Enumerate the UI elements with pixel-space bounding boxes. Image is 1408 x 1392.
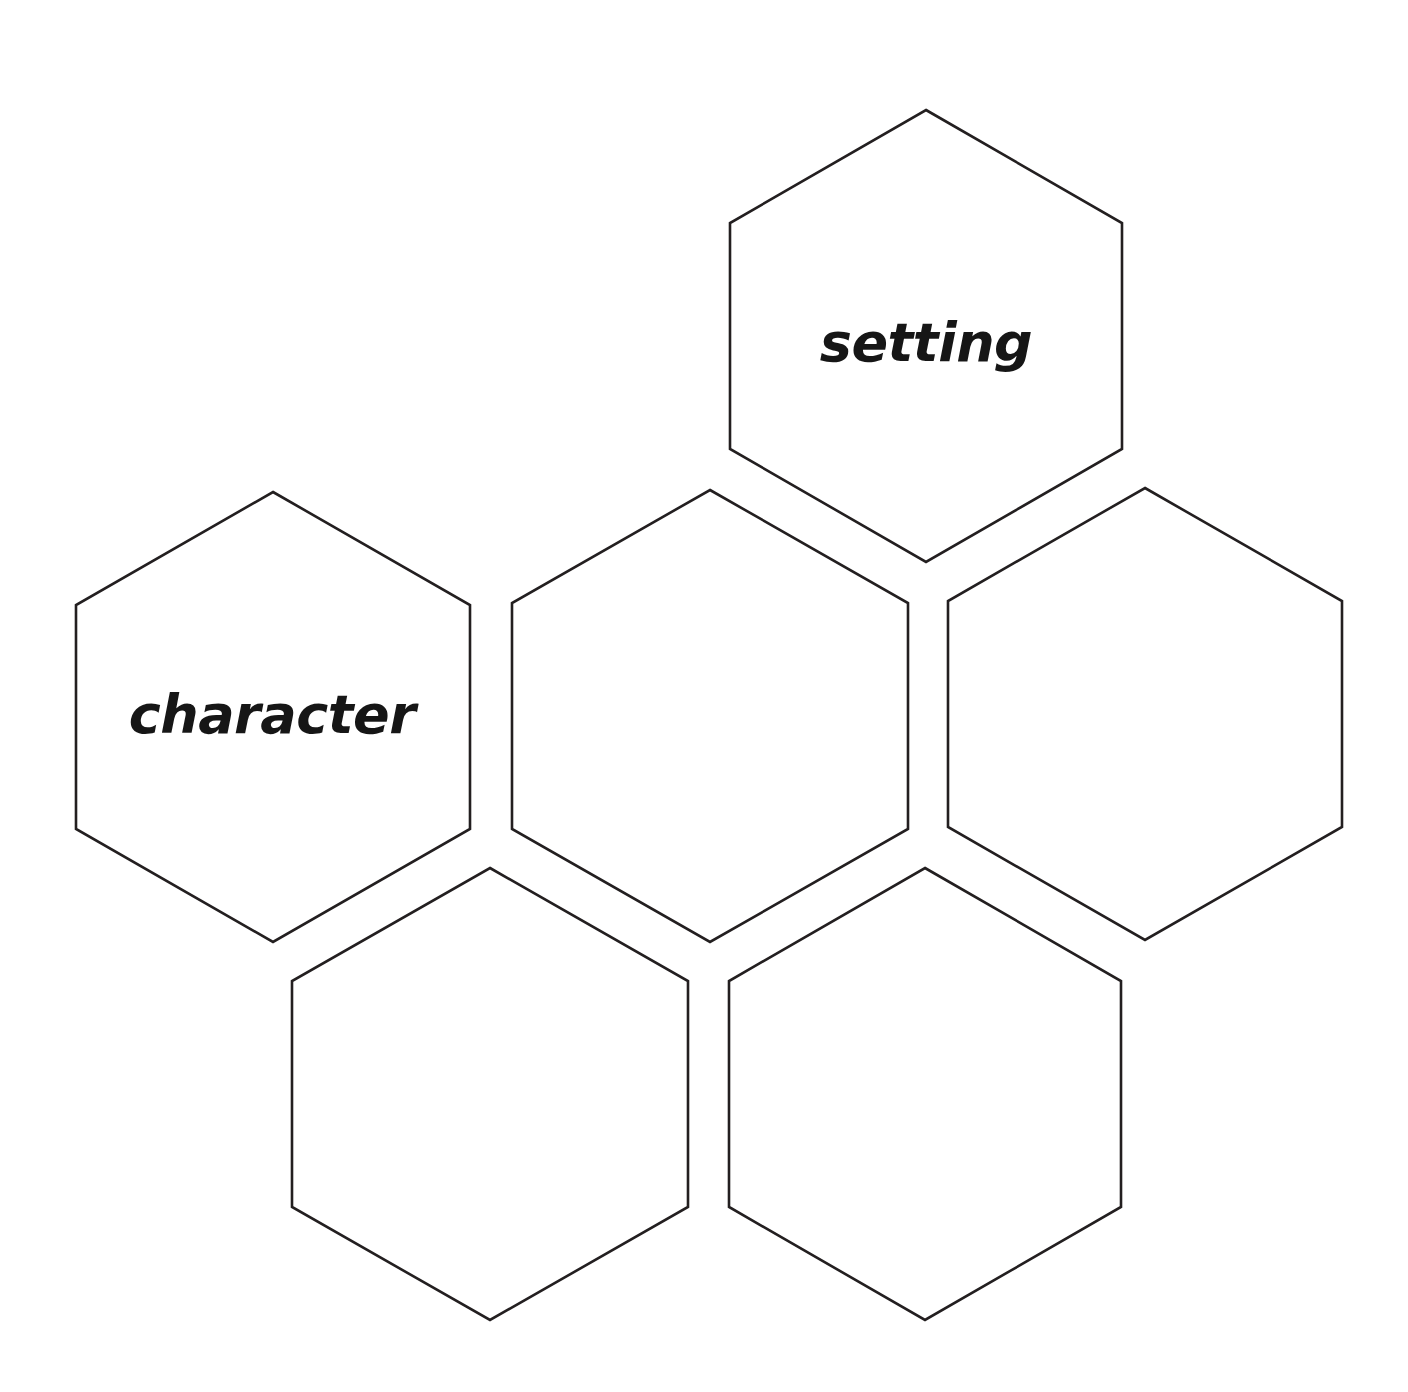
hexagon-outlines (0, 0, 1408, 1392)
hexagon-setting[interactable] (730, 110, 1122, 562)
hexagon-bottom-left-blank[interactable] (292, 868, 688, 1320)
hexagon-middle-blank[interactable] (512, 490, 908, 942)
hexagon-right-blank[interactable] (948, 488, 1342, 940)
hexagon-bottom-right-blank[interactable] (729, 868, 1121, 1320)
hexagon-character[interactable] (76, 492, 470, 942)
worksheet-canvas: settingcharacter (0, 0, 1408, 1392)
